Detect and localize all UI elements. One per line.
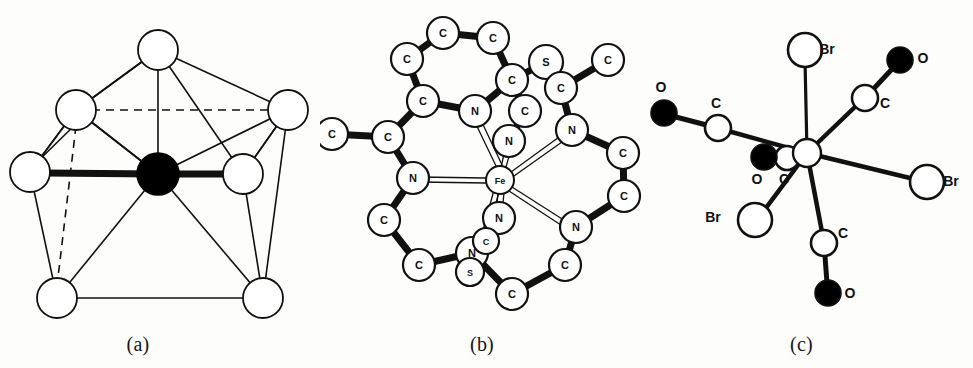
atom-label-c: C bbox=[604, 54, 612, 66]
vertex-upper-left bbox=[56, 90, 96, 130]
panel-c: BrBrBrCOCOCOCO (c) bbox=[650, 0, 973, 368]
atom-label-c: C bbox=[711, 95, 721, 111]
edge bbox=[158, 50, 243, 174]
panel-a-diagram bbox=[0, 0, 320, 368]
atom-o bbox=[651, 100, 677, 126]
atom-br bbox=[910, 165, 944, 199]
atom-o bbox=[815, 280, 841, 306]
atom-label-c: C bbox=[439, 27, 447, 39]
atom-label-br: Br bbox=[705, 209, 721, 225]
atom-label-c: C bbox=[521, 105, 529, 117]
atom-c bbox=[705, 115, 731, 141]
vertex-upper-right bbox=[268, 90, 308, 130]
vertex-lower-right bbox=[243, 278, 283, 318]
atom-label-c: C bbox=[779, 171, 789, 187]
panel-c-caption: (c) bbox=[640, 333, 963, 356]
panel-b-caption: (b) bbox=[312, 333, 652, 356]
vertex-left bbox=[10, 152, 50, 192]
vertex-lower-left bbox=[37, 278, 77, 318]
edge bbox=[263, 110, 288, 298]
atom-label-c: C bbox=[557, 82, 565, 94]
atom-label-br: Br bbox=[819, 41, 835, 57]
bond-metal-br-right bbox=[807, 153, 914, 179]
spoke bbox=[57, 174, 158, 298]
vertex-center-metal bbox=[137, 153, 179, 195]
atom-label-c: C bbox=[561, 259, 569, 271]
atom-c bbox=[811, 230, 837, 256]
atom-label-n: N bbox=[409, 172, 417, 184]
vertex-right bbox=[223, 154, 263, 194]
atom-o bbox=[887, 47, 913, 73]
panel-c-diagram: BrBrBrCOCOCOCO bbox=[650, 0, 973, 368]
atom-label-s: S bbox=[542, 56, 549, 68]
atom-label-o: O bbox=[845, 285, 856, 301]
vertex-top bbox=[138, 30, 178, 70]
atom-label-c: C bbox=[384, 131, 392, 143]
atom-label-c: C bbox=[619, 147, 627, 159]
atom-label-n: N bbox=[568, 124, 576, 136]
panel-b-atoms: CCCCCNSCCCNNCCNCCCNCNNCSCC Fe bbox=[320, 17, 640, 310]
atom-label-n: N bbox=[471, 105, 479, 117]
figure-root: (a) bbox=[0, 0, 973, 368]
dashed-edge bbox=[57, 126, 76, 286]
atom-label-o: O bbox=[656, 79, 667, 95]
atom-label-c: C bbox=[508, 74, 516, 86]
atom-o bbox=[751, 144, 777, 170]
atom-label-o: O bbox=[918, 50, 929, 66]
metal-center bbox=[793, 139, 821, 167]
atom-br bbox=[788, 33, 822, 67]
atom-label-o: O bbox=[752, 171, 763, 187]
atom-label-s: S bbox=[467, 268, 473, 278]
panel-a: (a) bbox=[0, 0, 320, 368]
atom-label-c: C bbox=[328, 128, 336, 140]
atom-label-c: C bbox=[403, 53, 411, 65]
atom-label-c: C bbox=[620, 190, 628, 202]
panel-b: CCCCCNSCCCNNCCNCCCNCNNCSCC Fe (b) bbox=[320, 0, 660, 368]
atom-label-c: C bbox=[880, 95, 890, 111]
atom-label-c: C bbox=[489, 32, 497, 44]
panel-b-diagram: CCCCCNSCCCNNCCNCCCNCNNCSCC Fe bbox=[320, 0, 660, 368]
atom-label-c: C bbox=[838, 225, 848, 241]
atom-label-n: N bbox=[505, 135, 513, 147]
atom-label-n: N bbox=[495, 212, 503, 224]
atom-label-c: C bbox=[415, 259, 423, 271]
atom-label-c: C bbox=[508, 288, 516, 300]
atom-br bbox=[738, 203, 772, 237]
atom-label-c: C bbox=[419, 95, 427, 107]
atom-label-c: C bbox=[380, 214, 388, 226]
panel-a-caption: (a) bbox=[0, 333, 298, 356]
edge bbox=[158, 50, 288, 110]
metal-center-fe-label: Fe bbox=[495, 176, 506, 186]
atom-label-n: N bbox=[572, 221, 580, 233]
atom-c bbox=[852, 85, 878, 111]
atom-label-c: C bbox=[483, 237, 490, 247]
atom-label-br: Br bbox=[943, 173, 959, 189]
